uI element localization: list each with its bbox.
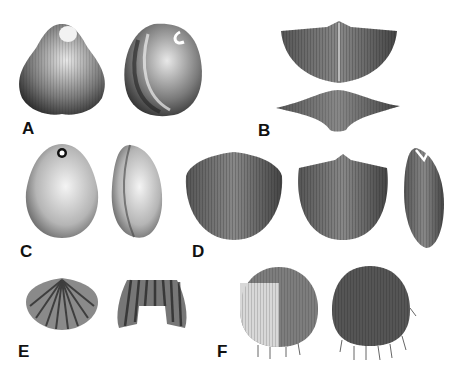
brachiopod-plate: A B C D [0, 0, 466, 371]
specimen-f-ventral [326, 262, 418, 362]
panel-label-b: B [258, 122, 270, 139]
specimen-e-dorsal [24, 276, 100, 332]
panel-label-a: A [22, 120, 34, 137]
specimen-b-dorsal [277, 19, 401, 85]
specimen-d-ventral [184, 150, 284, 242]
specimen-e-anterior [115, 276, 189, 330]
panel-label-c: C [20, 243, 32, 260]
panel-label-d: D [192, 243, 204, 260]
specimen-f-dorsal [236, 263, 322, 359]
specimen-c-dorsal [24, 142, 100, 240]
specimen-d-lateral [402, 146, 446, 250]
specimen-c-lateral [108, 143, 164, 241]
specimen-a-lateral [120, 20, 206, 118]
specimen-a-dorsal [14, 20, 110, 116]
specimen-d-dorsal [295, 150, 391, 242]
panel-label-e: E [18, 343, 29, 360]
panel-label-f: F [217, 343, 227, 360]
specimen-b-anterior [274, 88, 402, 132]
